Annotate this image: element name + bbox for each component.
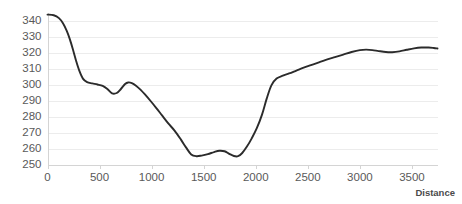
x-tick-label: 1500 <box>191 171 217 183</box>
y-tick-label: 290 <box>22 94 41 106</box>
x-tick-label: 1000 <box>139 171 165 183</box>
y-tick-label: 280 <box>22 110 41 122</box>
x-tick-label: 0 <box>44 171 50 183</box>
y-tick-label: 340 <box>22 14 41 26</box>
y-tick-label: 270 <box>22 126 41 138</box>
y-tick-label: 250 <box>22 158 41 170</box>
x-tick-label: 500 <box>90 171 109 183</box>
x-tick-label: 2000 <box>243 171 269 183</box>
x-tick-label: 2500 <box>295 171 321 183</box>
x-tick-label: 3000 <box>347 171 373 183</box>
line-chart: 250260270280290300310320330340 050010001… <box>0 0 462 204</box>
x-tick-label: 3500 <box>399 171 425 183</box>
y-tick-label: 330 <box>22 30 41 42</box>
y-tick-label: 310 <box>22 62 41 74</box>
x-axis-title: Distance <box>415 187 455 198</box>
y-tick-label: 320 <box>22 46 41 58</box>
y-tick-label: 300 <box>22 78 41 90</box>
y-tick-label: 260 <box>22 142 41 154</box>
chart-container: 250260270280290300310320330340 050010001… <box>0 0 462 204</box>
